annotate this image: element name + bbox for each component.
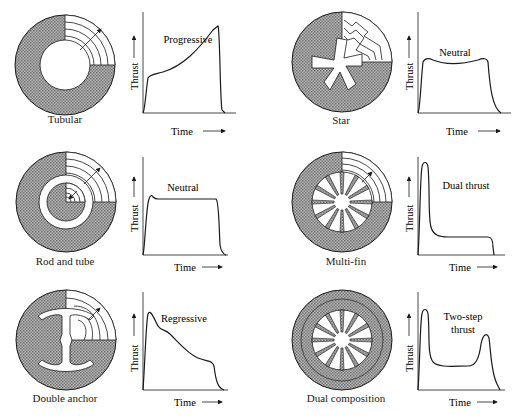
x-axis-label: Time xyxy=(446,126,468,135)
grain-caption: Dual composition xyxy=(291,392,401,404)
axis-labels: Thrust Time xyxy=(393,282,522,407)
tubular-grain-diagram xyxy=(12,12,118,118)
multi-fin-grain-diagram xyxy=(290,150,394,254)
grain-caption: Multi-fin xyxy=(316,255,376,267)
panel-double-anchor: Double anchor Regressive Thrust Time xyxy=(0,270,261,405)
panel-dual-composition: Dual composition Two-step thrust Thrust … xyxy=(261,270,522,405)
double-anchor-grain-diagram xyxy=(14,288,118,392)
axis-labels: Thrust Time xyxy=(393,147,522,272)
y-axis-label: Thrust xyxy=(129,345,140,372)
axis-labels: Thrust Time xyxy=(393,10,522,135)
panel-multi-fin: Multi-fin Dual thrust Thrust Time xyxy=(261,135,522,270)
y-axis-label: Thrust xyxy=(404,345,415,372)
panel-tubular: Tubular Progressive Thrust Time xyxy=(0,0,261,135)
axis-labels: Thrust Time xyxy=(118,147,248,272)
axis-labels: Thrust Time xyxy=(118,282,248,407)
x-axis-label: Time xyxy=(174,397,196,407)
grain-caption: Star xyxy=(321,114,361,126)
panel-rod-and-tube: Rod and tube Neutral Thrust Time xyxy=(0,135,261,270)
grain-caption: Double anchor xyxy=(20,392,110,404)
axis-labels: Thrust Time xyxy=(118,10,248,135)
y-axis-label: Thrust xyxy=(404,63,415,90)
grain-caption: Rod and tube xyxy=(25,255,105,267)
rod-and-tube-grain-diagram xyxy=(14,150,118,254)
dual-composition-grain-diagram xyxy=(290,288,394,392)
x-axis-label: Time xyxy=(171,126,193,135)
panel-star: Star Neutral Thrust Time xyxy=(261,0,522,135)
grain-caption: Tubular xyxy=(25,113,105,125)
y-axis-label: Thrust xyxy=(404,205,415,232)
star-grain-diagram xyxy=(290,10,394,114)
y-axis-label: Thrust xyxy=(129,63,140,90)
x-axis-label: Time xyxy=(449,397,471,407)
y-axis-label: Thrust xyxy=(129,205,140,232)
